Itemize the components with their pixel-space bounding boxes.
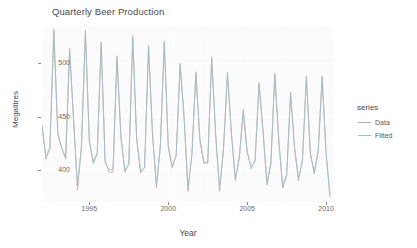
legend-item[interactable]: Data bbox=[357, 117, 393, 128]
legend-title: series bbox=[357, 103, 393, 112]
y-tick-label: 450 bbox=[30, 113, 70, 120]
y-tick-mark bbox=[38, 117, 41, 118]
legend: series DataFitted bbox=[357, 103, 393, 143]
x-tick-mark bbox=[89, 202, 90, 205]
x-tick-label: 2000 bbox=[160, 205, 176, 212]
x-tick-label: 1995 bbox=[82, 205, 98, 212]
y-axis-title: Megalitres bbox=[11, 75, 20, 145]
plot-panel bbox=[42, 26, 334, 202]
x-tick-label: 2005 bbox=[239, 205, 255, 212]
chart-root: Quarterly Beer Production Megalitres Yea… bbox=[0, 0, 417, 248]
legend-items: DataFitted bbox=[357, 117, 393, 141]
x-tick-mark bbox=[247, 202, 248, 205]
y-tick-label: 500 bbox=[30, 59, 70, 66]
x-tick-mark bbox=[168, 202, 169, 205]
legend-item-label: Data bbox=[375, 119, 390, 126]
x-axis-title: Year bbox=[42, 228, 334, 238]
legend-key-line-icon bbox=[357, 118, 371, 127]
x-tick-mark bbox=[326, 202, 327, 205]
y-tick-mark bbox=[38, 170, 41, 171]
series-lines bbox=[42, 26, 334, 202]
y-tick-mark bbox=[38, 63, 41, 64]
page-title: Quarterly Beer Production bbox=[52, 6, 164, 17]
legend-key-line-icon bbox=[357, 131, 371, 140]
legend-item[interactable]: Fitted bbox=[357, 130, 393, 141]
y-tick-label: 400 bbox=[30, 166, 70, 173]
x-tick-label: 2010 bbox=[318, 205, 334, 212]
legend-item-label: Fitted bbox=[375, 132, 393, 139]
